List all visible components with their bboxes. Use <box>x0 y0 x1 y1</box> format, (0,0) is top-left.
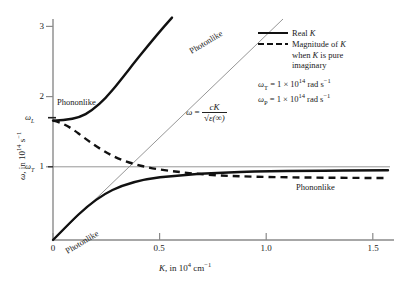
x-axis-title: K, in 104 cm−1 <box>159 262 211 273</box>
legend-label-real-k: Real K <box>292 28 315 38</box>
y-tick-label-2: 2 <box>30 92 44 101</box>
param-omega-T-unit-exp: −1 <box>324 77 331 84</box>
y-tick-label-3: 3 <box>30 22 44 31</box>
param-omega-T-value: = 1 × 10 <box>268 79 299 89</box>
legend-dashed-line-swatch <box>258 39 288 48</box>
y-axis-title-unit-exp: −1 <box>15 132 22 139</box>
legend-parameters: ωT = 1 × 1014 rad s−1 ωP = 1 × 1014 rad … <box>258 77 346 105</box>
equation-fraction: cK √ε(∞) <box>202 102 227 123</box>
y-axis-title-unit: s <box>17 139 27 145</box>
x-axis-title-rest: , in 10 <box>165 263 188 273</box>
x-axis-title-unit: cm <box>191 263 204 273</box>
param-omega-P-value: = 1 × 10 <box>268 93 299 103</box>
x-axis-title-unit-exp: −1 <box>204 261 211 268</box>
legend-cont1-after: is pure <box>318 50 343 60</box>
y-axis-title-exp: 14 <box>15 144 22 151</box>
legend-imag-k-symbol: K <box>340 39 346 49</box>
x-tick-label-0.5: 0.5 <box>147 244 171 253</box>
lower-polariton-branch <box>53 170 388 240</box>
legend-continuation-line-2: imaginary <box>292 60 346 70</box>
x-tick-label-1.5: 1.5 <box>361 244 385 253</box>
chart-legend: Real K Magnitude of K when K is pure ima… <box>258 28 346 106</box>
phononlike-lower-label: Phononlike <box>296 183 335 192</box>
param-omega-P-unit-exp: −1 <box>323 92 330 99</box>
legend-continuation-line-1: when K is pure <box>292 50 346 60</box>
legend-entry-imaginary-k: Magnitude of K <box>258 39 346 49</box>
legend-entry-real-k: Real K <box>258 28 346 38</box>
parameter-omega-P: ωP = 1 × 1014 rad s−1 <box>258 92 346 106</box>
y-axis-title: ω, in 1014 s−1 <box>16 132 27 180</box>
x-axis-ticks <box>53 233 373 240</box>
parameter-omega-T: ωT = 1 × 1014 rad s−1 <box>258 77 346 91</box>
y-axis-ticks <box>46 26 53 166</box>
param-omega-T-unit: rad s <box>305 79 323 89</box>
legend-cont1-before: when <box>292 50 313 60</box>
x-tick-label-1.0: 1.0 <box>254 244 278 253</box>
light-line-equation: ω = cK √ε(∞) <box>186 102 227 123</box>
legend-imag-k-text: Magnitude of <box>292 39 340 49</box>
legend-label-imaginary-k: Magnitude of K <box>292 39 346 49</box>
equation-lhs: ω <box>186 107 192 117</box>
equation-denominator: √ε(∞) <box>202 112 227 123</box>
phononlike-upper-label: Phononlike <box>57 98 96 107</box>
legend-solid-line-swatch <box>258 28 288 37</box>
equation-numerator: cK <box>202 102 227 112</box>
y-axis-title-rest: , in 10 <box>17 151 27 174</box>
omega-L-label: ωL <box>25 113 34 124</box>
param-omega-P-unit: rad s <box>305 93 323 103</box>
x-tick-label-0: 0 <box>41 244 65 253</box>
equation-equals: = <box>195 107 200 117</box>
y-axis-title-symbol: ω <box>17 174 27 180</box>
equation-denominator-body: ε(∞) <box>209 113 225 123</box>
polariton-dispersion-figure: 3 2 1 ωL ωT 0 0.5 1.0 1.5 K, in 104 cm−1… <box>0 0 407 283</box>
legend-real-k-text: Real <box>292 28 310 38</box>
legend-real-k-symbol: K <box>310 28 316 38</box>
